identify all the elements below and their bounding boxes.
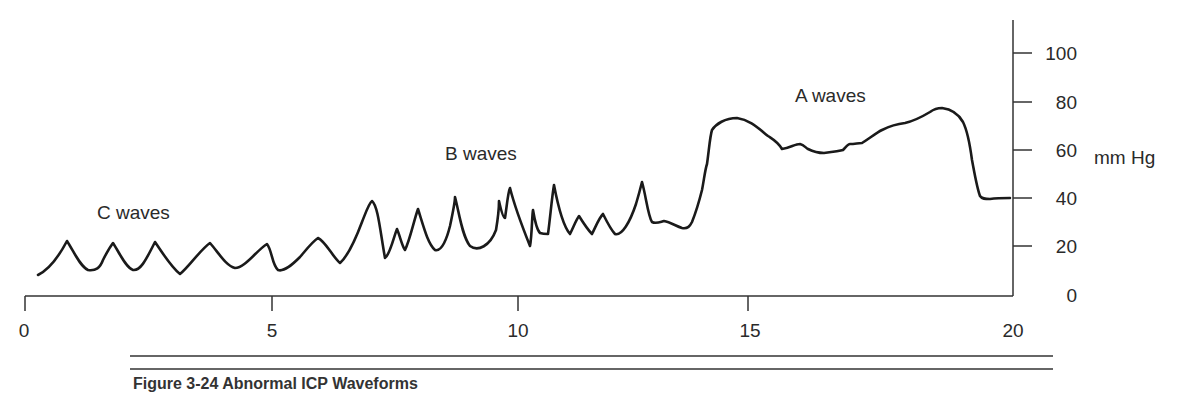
a-waves-label: A waves (795, 85, 866, 106)
y-tick-20: 20 (1056, 236, 1077, 257)
x-tick-10: 10 (507, 320, 528, 341)
caption-rules (130, 356, 1053, 369)
y-tick-0: 0 (1066, 285, 1077, 306)
x-tick-labels: 0 5 10 15 20 (19, 320, 1024, 341)
icp-waveform-line (38, 108, 1010, 275)
b-waves-label: B waves (445, 143, 517, 164)
y-tick-60: 60 (1056, 140, 1077, 161)
x-tick-20: 20 (1002, 320, 1023, 341)
x-tick-5: 5 (267, 320, 278, 341)
y-axis-unit-label: mm Hg (1094, 147, 1155, 168)
figure-caption: Figure 3-24 Abnormal ICP Waveforms (133, 375, 418, 393)
c-waves-label: C waves (97, 202, 170, 223)
y-tick-40: 40 (1056, 188, 1077, 209)
y-tick-labels: 100 80 60 40 20 0 (1045, 43, 1077, 306)
x-axis (25, 296, 1013, 311)
y-axis (1013, 20, 1032, 296)
x-tick-15: 15 (739, 320, 760, 341)
y-tick-100: 100 (1045, 43, 1077, 64)
x-tick-0: 0 (19, 320, 30, 341)
y-tick-80: 80 (1056, 92, 1077, 113)
